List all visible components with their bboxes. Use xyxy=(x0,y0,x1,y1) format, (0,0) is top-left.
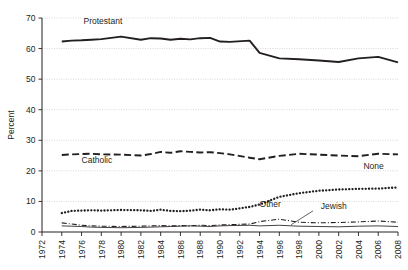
y-tick-label: 50 xyxy=(26,74,36,84)
x-tick-label: 1982 xyxy=(136,240,146,259)
x-tick-label: 2008 xyxy=(393,240,403,259)
x-tick-label: 1992 xyxy=(235,240,245,259)
x-tick-label: 1994 xyxy=(255,240,265,259)
y-tick-label: 70 xyxy=(26,13,36,23)
series-label-other: Other xyxy=(260,199,281,209)
y-tick-label: 40 xyxy=(26,105,36,115)
religious-affiliation-line-chart: 010203040506070 197219741976197819801982… xyxy=(0,0,408,270)
x-tick-label: 1990 xyxy=(215,240,225,259)
x-tick-label: 2006 xyxy=(373,240,383,259)
x-tick-label: 2002 xyxy=(334,240,344,259)
x-tick-label: 1974 xyxy=(57,240,67,259)
series-label-catholic: Catholic xyxy=(82,155,113,165)
series-label-jewish: Jewish xyxy=(321,201,347,211)
y-tick-label: 0 xyxy=(31,227,36,237)
x-tick-label: 1980 xyxy=(116,240,126,259)
series-label-none: None xyxy=(363,161,384,171)
x-tick-label: 2000 xyxy=(314,240,324,259)
x-tick-label: 1988 xyxy=(195,240,205,259)
y-axis-title: Percent xyxy=(6,110,16,140)
x-tick-label: 1976 xyxy=(77,240,87,259)
y-tick-label: 60 xyxy=(26,44,36,54)
series-label-protestant: Protestant xyxy=(84,16,123,26)
chart-background xyxy=(0,0,408,270)
x-tick-label: 1998 xyxy=(294,240,304,259)
y-tick-label: 30 xyxy=(26,135,36,145)
x-tick-label: 1984 xyxy=(156,240,166,259)
x-tick-label: 1972 xyxy=(37,240,47,259)
chart-figure: 010203040506070 197219741976197819801982… xyxy=(0,0,408,270)
x-tick-label: 1978 xyxy=(97,240,107,259)
x-tick-label: 1996 xyxy=(275,240,285,259)
x-tick-label: 1986 xyxy=(176,240,186,259)
y-tick-label: 10 xyxy=(26,196,36,206)
x-tick-label: 2004 xyxy=(354,240,364,259)
y-tick-label: 20 xyxy=(26,166,36,176)
